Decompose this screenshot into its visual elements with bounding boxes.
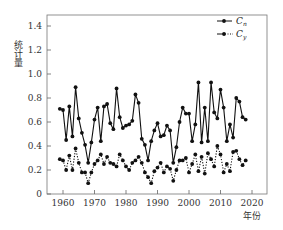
- data-point: [200, 141, 204, 145]
- x-tick-label: 2020: [241, 198, 264, 208]
- data-point: [162, 133, 166, 137]
- data-point: [225, 162, 229, 166]
- data-point: [193, 123, 197, 127]
- data-point: [71, 135, 75, 139]
- y-axis-title: 统计量: [13, 39, 23, 67]
- data-point: [197, 169, 201, 173]
- data-point: [193, 153, 197, 157]
- x-axis-title: 年份: [243, 210, 261, 221]
- data-point: [181, 106, 185, 110]
- data-point: [149, 139, 153, 143]
- data-point: [231, 136, 235, 140]
- data-point: [93, 162, 97, 166]
- data-point: [61, 108, 65, 112]
- data-point: [165, 165, 169, 169]
- y-tick-label: 1.2: [28, 45, 42, 55]
- data-point: [105, 102, 109, 106]
- series-layer: [58, 81, 248, 186]
- data-point: [137, 155, 141, 159]
- data-point: [121, 126, 125, 130]
- x-tick-label: 1980: [115, 198, 138, 208]
- data-point: [152, 169, 156, 173]
- y-tick-label: 1.0: [28, 69, 43, 79]
- data-point: [212, 111, 216, 115]
- data-point: [178, 120, 182, 124]
- data-point: [203, 106, 207, 110]
- data-point: [130, 119, 134, 123]
- x-tick-label: 1960: [52, 198, 75, 208]
- y-tick-label: 0.2: [28, 165, 42, 175]
- data-point: [234, 96, 238, 100]
- data-point: [219, 88, 223, 92]
- y-tick-label: 0: [36, 189, 42, 199]
- data-point: [149, 181, 153, 185]
- data-point: [143, 171, 147, 175]
- data-point: [209, 157, 213, 161]
- x-tick-label: 1970: [83, 198, 106, 208]
- data-point: [96, 106, 100, 110]
- data-point: [200, 155, 204, 159]
- data-point: [234, 149, 238, 153]
- data-point: [238, 157, 242, 161]
- data-point: [241, 163, 245, 167]
- data-point: [74, 147, 78, 151]
- legend: CnCy: [217, 16, 247, 41]
- data-point: [168, 129, 172, 133]
- data-point: [187, 112, 191, 116]
- y-tick-label: 0.4: [28, 141, 43, 151]
- y-tick-label: 0.6: [28, 117, 43, 127]
- data-point: [137, 101, 141, 105]
- data-point: [222, 171, 226, 175]
- data-point: [146, 175, 150, 179]
- data-point: [156, 166, 160, 170]
- data-point: [118, 115, 122, 119]
- legend-label-cn: Cn: [236, 16, 247, 27]
- data-point: [219, 153, 223, 157]
- data-point: [162, 171, 166, 175]
- data-point: [64, 138, 68, 142]
- data-point: [108, 121, 112, 125]
- data-point: [203, 172, 207, 176]
- data-point: [115, 87, 119, 91]
- data-point: [80, 131, 84, 135]
- data-point: [143, 143, 147, 147]
- data-point: [244, 118, 248, 122]
- data-point: [99, 139, 103, 143]
- data-point: [225, 139, 229, 143]
- data-point: [102, 162, 106, 166]
- data-point: [241, 115, 245, 119]
- data-point: [96, 159, 100, 163]
- data-point: [209, 81, 213, 85]
- data-point: [184, 156, 188, 160]
- data-point: [89, 171, 93, 175]
- data-point: [112, 162, 116, 166]
- data-point: [124, 165, 128, 169]
- data-point: [112, 127, 116, 131]
- data-point: [134, 159, 138, 163]
- data-point: [67, 154, 71, 158]
- data-point: [121, 159, 125, 163]
- data-point: [83, 143, 87, 147]
- data-point: [159, 161, 163, 165]
- data-point: [165, 124, 169, 128]
- x-tick-label: 2000: [178, 198, 201, 208]
- data-point: [89, 141, 93, 145]
- data-point: [77, 161, 81, 165]
- legend-marker: [222, 32, 226, 36]
- y-tick-label: 0.8: [28, 93, 43, 103]
- data-point: [115, 165, 119, 169]
- data-point: [64, 168, 68, 172]
- x-axis: 1960197019801990200020102020: [52, 190, 264, 208]
- data-point: [134, 93, 138, 97]
- y-tick-label: 1.4: [28, 21, 43, 31]
- data-point: [222, 106, 226, 110]
- data-point: [140, 137, 144, 141]
- data-point: [156, 121, 160, 125]
- data-point: [152, 129, 156, 133]
- data-point: [212, 165, 216, 169]
- data-point: [190, 139, 194, 143]
- data-point: [105, 155, 109, 159]
- data-point: [175, 168, 179, 172]
- x-tick-label: 1990: [146, 198, 169, 208]
- data-point: [187, 171, 191, 175]
